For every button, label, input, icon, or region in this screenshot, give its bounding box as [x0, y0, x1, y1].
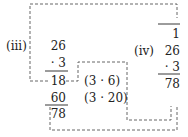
- left-multiplier: · 3: [40, 57, 66, 69]
- note-3x20: (3 · 20): [84, 92, 128, 104]
- label-iv: (iv): [134, 45, 154, 57]
- left-multiplicand: 26: [40, 40, 66, 52]
- right-result: 78: [152, 78, 180, 90]
- left-result: 78: [40, 108, 66, 120]
- multiplication-diagram: (iii) 26 · 3 18 60 78 (3 · 6) (3 · 20) 1…: [0, 0, 188, 137]
- left-partial-product-1: 18: [40, 75, 66, 87]
- left-partial-product-2: 60: [40, 92, 66, 104]
- right-multiplier: · 3: [152, 61, 180, 73]
- label-iii: (iii): [6, 40, 27, 52]
- note-3x6: (3 · 6): [84, 75, 120, 87]
- right-carry: 1: [152, 28, 180, 40]
- right-multiplicand: 26: [152, 45, 180, 57]
